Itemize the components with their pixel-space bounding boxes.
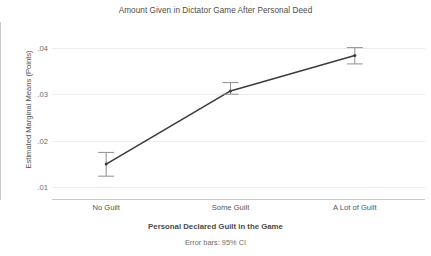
series-plot [0,0,431,256]
error-bar-some-guilt [223,83,239,95]
data-point-no-guilt [105,163,108,166]
data-line [106,56,355,165]
error-bars-caption: Error bars: 95% CI [0,238,431,247]
data-point-a-lot-of-guilt [353,54,356,57]
x-axis-title: Personal Declared Guilt in the Game [0,222,431,231]
chart-figure: Amount Given in Dictator Game After Pers… [0,0,431,256]
data-point-some-guilt [229,89,232,92]
